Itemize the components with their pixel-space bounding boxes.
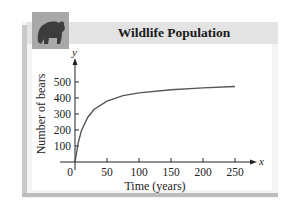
y-tick-label: 100 xyxy=(54,140,72,152)
x-axis-symbol: x xyxy=(258,155,264,167)
y-axis-symbol: y xyxy=(71,46,77,58)
y-tick-label: 500 xyxy=(54,76,72,88)
x-tick-label: 50 xyxy=(101,166,113,178)
y-ticks xyxy=(75,82,79,146)
x-ticks xyxy=(107,158,235,162)
population-curve xyxy=(75,87,235,163)
x-tick-label: 250 xyxy=(226,166,244,178)
y-axis-arrow-icon xyxy=(73,58,78,65)
line-chart: 100 200 300 400 500 0 50 100 150 200 250… xyxy=(0,0,289,214)
x-axis-label: Time (years) xyxy=(124,179,185,193)
y-tick-label: 400 xyxy=(54,92,72,104)
y-tick-label: 300 xyxy=(54,108,72,120)
y-axis-label: Number of bears xyxy=(34,73,48,154)
y-tick-label: 200 xyxy=(54,124,72,136)
x-axis-arrow-icon xyxy=(250,160,257,165)
x-tick-label: 100 xyxy=(130,166,148,178)
x-tick-label: 200 xyxy=(194,166,212,178)
x-tick-label: 0 xyxy=(67,166,73,178)
x-tick-label: 150 xyxy=(162,166,180,178)
